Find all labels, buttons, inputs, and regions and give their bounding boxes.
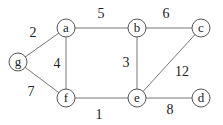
edge-weight-label: 8 xyxy=(167,102,174,117)
node-label: e xyxy=(134,90,140,105)
node-d: d xyxy=(192,89,210,107)
edge-weight-label: 7 xyxy=(28,84,35,99)
edge-weight-label: 3 xyxy=(123,55,130,70)
node-label: f xyxy=(64,90,69,105)
edge-weight-label: 4 xyxy=(54,56,61,71)
node-g: g xyxy=(9,53,27,71)
node-label: a xyxy=(63,20,69,35)
node-e: e xyxy=(128,89,146,107)
node-c: c xyxy=(192,19,210,37)
node-a: a xyxy=(57,19,75,37)
edge-weight-label: 6 xyxy=(163,6,170,21)
edge-line xyxy=(137,28,201,98)
weighted-graph: 5624731218 abcgfed xyxy=(0,0,223,125)
node-label: b xyxy=(134,20,141,35)
node-label: g xyxy=(15,54,22,69)
node-b: b xyxy=(128,19,146,37)
node-f: f xyxy=(57,89,75,107)
edge-weight-label: 1 xyxy=(96,107,103,122)
node-label: c xyxy=(198,20,204,35)
edge-weight-label: 5 xyxy=(98,6,105,21)
edge-weight-label: 2 xyxy=(30,25,37,40)
node-label: d xyxy=(198,90,205,105)
edge-weight-label: 12 xyxy=(175,64,189,79)
edge-e-c xyxy=(137,28,201,98)
